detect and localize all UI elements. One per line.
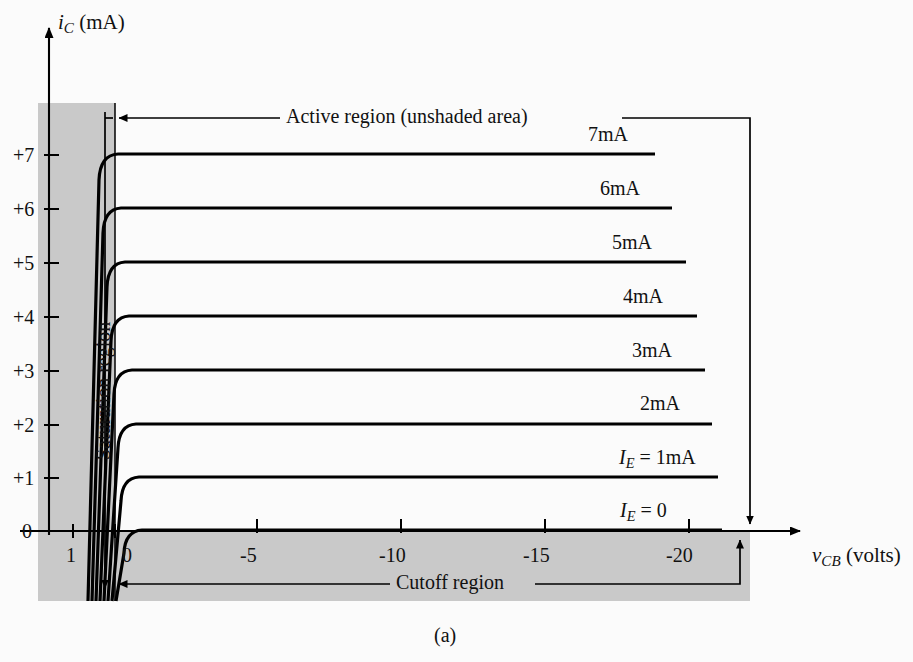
y-tick-label-0: 0	[22, 521, 32, 541]
cutoff-region-label: Cutoff region	[396, 572, 504, 592]
curve-label-4ma: 4mA	[623, 286, 663, 306]
curve-label-5ma: 5mA	[612, 232, 652, 252]
x-tick-label-minus15: -15	[523, 545, 550, 565]
y-tick-label-2: +2	[13, 415, 34, 435]
x-tick-label-1: 1	[66, 545, 76, 565]
y-tick-label-1: +1	[13, 468, 34, 488]
curve-label-2ma: 2mA	[640, 393, 680, 413]
curve-label-0ma-subscript: E	[627, 508, 636, 524]
curve-label-0ma-symbol: I	[620, 499, 627, 521]
active-region-label: Active region (unshaded area)	[286, 106, 528, 126]
x-tick-label-minus5: -5	[240, 545, 257, 565]
x-tick-label-0: 0	[122, 545, 132, 565]
curve-label-6ma: 6mA	[600, 178, 640, 198]
saturation-region-label: Saturation region	[93, 322, 113, 460]
y-tick-label-6: +6	[13, 199, 34, 219]
y-tick-label-3: +3	[13, 361, 34, 381]
y-axis-title: iC (mA)	[58, 12, 125, 36]
x-tick-label-minus10: -10	[379, 545, 406, 565]
curve-label-7ma: 7mA	[588, 124, 628, 144]
y-tick-label-4: +4	[13, 307, 34, 327]
figure-caption: (a)	[434, 625, 456, 645]
x-axis-symbol: v	[812, 543, 821, 567]
curve-label-0ma: IE = 0	[620, 500, 667, 523]
curve-label-1ma-symbol: I	[619, 446, 626, 468]
y-axis-subscript: C	[64, 20, 74, 36]
x-axis-unit: (volts)	[846, 543, 901, 567]
x-tick-label-minus20: -20	[666, 545, 693, 565]
curve-label-0ma-value: = 0	[640, 499, 666, 521]
x-axis-title: vCB (volts)	[812, 545, 901, 569]
figure-container: iC (mA) vCB (volts) +7 +6 +5 +4 +3 +2 +1…	[0, 0, 913, 662]
ic-vcb-characteristic-plot	[0, 0, 913, 662]
y-tick-label-7: +7	[13, 145, 34, 165]
y-tick-label-5: +5	[13, 253, 34, 273]
curve-label-1ma-value: = 1mA	[639, 446, 695, 468]
curve-label-1ma-subscript: E	[626, 455, 635, 471]
curve-label-3ma: 3mA	[632, 340, 672, 360]
curve-label-1ma: IE = 1mA	[619, 447, 696, 470]
cutoff-shaded-area	[38, 531, 750, 601]
x-axis-subscript: CB	[821, 553, 840, 569]
y-axis-unit: (mA)	[79, 10, 125, 34]
